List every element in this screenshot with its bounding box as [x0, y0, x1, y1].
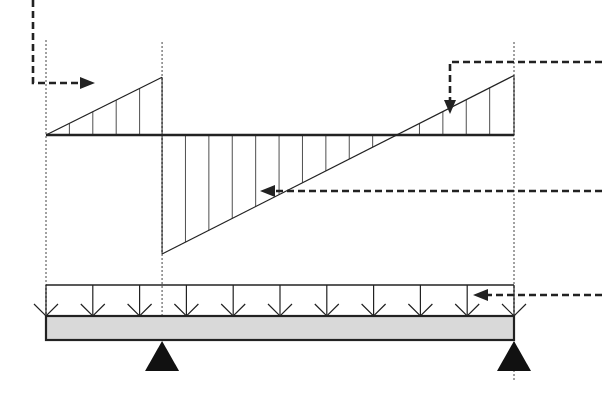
callout-span-shear-arrowhead [260, 185, 275, 197]
beam [46, 316, 514, 340]
right-end-support [497, 341, 531, 371]
distributed-load [34, 285, 526, 316]
callout-right-reaction-shear [450, 62, 602, 100]
shear-line-span-linear [162, 76, 514, 255]
callout-distributed-load-arrowhead [473, 289, 488, 301]
callout-overhang-shear [33, 0, 80, 83]
shear-line-overhang-positive [46, 77, 162, 135]
callout-overhang-shear-arrowhead [80, 77, 95, 89]
callout-right-reaction-shear-arrowhead [444, 100, 456, 114]
shear-diagram [46, 76, 514, 255]
left-interior-support [145, 341, 179, 371]
callouts [33, 0, 602, 301]
shear-force-diagram [0, 0, 602, 404]
supports [145, 341, 531, 371]
